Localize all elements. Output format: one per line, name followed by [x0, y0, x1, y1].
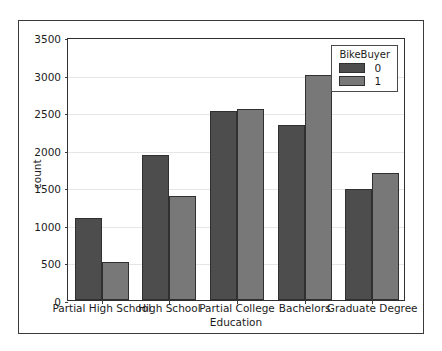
legend-entry: 1: [339, 76, 390, 87]
y-tick-mark: [65, 152, 69, 153]
bar: [102, 262, 129, 300]
legend-entry: 0: [339, 63, 390, 74]
y-tick-label: 3500: [34, 34, 68, 45]
legend-label: 0: [374, 63, 381, 74]
bar: [372, 173, 399, 300]
legend: BikeBuyer 01: [331, 45, 398, 92]
legend-swatch: [339, 63, 365, 73]
y-tick-label: 2000: [34, 146, 68, 157]
x-tick-mark: [305, 300, 306, 304]
figure-panel: count 0500100015002000250030003500 Parti…: [18, 20, 424, 334]
x-tick-mark: [237, 300, 238, 304]
y-tick-label: 1000: [34, 222, 68, 233]
y-tick-label: 1500: [34, 184, 68, 195]
bar: [75, 218, 102, 300]
x-axis-label: Education: [68, 316, 404, 328]
y-tick-mark: [65, 264, 69, 265]
plot-area: 0500100015002000250030003500 Partial Hig…: [67, 38, 405, 301]
y-tick-label: 2500: [34, 109, 68, 120]
bar: [305, 75, 332, 300]
x-tick-mark: [102, 300, 103, 304]
bar: [142, 155, 169, 300]
legend-entries: 01: [339, 63, 390, 86]
bar: [210, 111, 237, 300]
x-tick-mark: [169, 300, 170, 304]
bar: [278, 125, 305, 300]
x-tick-mark: [372, 300, 373, 304]
legend-title: BikeBuyer: [339, 50, 390, 60]
bar: [169, 196, 196, 300]
y-tick-mark: [65, 227, 69, 228]
y-tick-mark: [65, 114, 69, 115]
y-tick-mark: [65, 39, 69, 40]
y-tick-label: 3000: [34, 71, 68, 82]
legend-swatch: [339, 76, 365, 86]
legend-label: 1: [374, 76, 381, 87]
y-tick-mark: [65, 77, 69, 78]
y-tick-mark: [65, 189, 69, 190]
bar: [345, 189, 372, 300]
bar: [237, 109, 264, 300]
